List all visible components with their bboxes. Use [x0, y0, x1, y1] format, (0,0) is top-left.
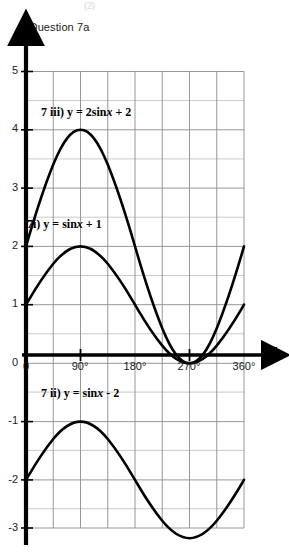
- x-tick-180: 180°: [115, 360, 155, 372]
- annotation-sinx-plus-1: 7i) y = sinx + 1: [27, 217, 102, 232]
- grid-vertical: [26, 72, 244, 529]
- y-tick-2: 2: [0, 239, 18, 251]
- y-tick-3: 3: [0, 181, 18, 193]
- y-tick-neg2: -2: [0, 473, 18, 485]
- y-tick-1: 1: [0, 297, 18, 309]
- annotation-sinx-minus-2: 7 ii) y = sinx - 2: [41, 386, 119, 401]
- chart-canvas: (2) Question 7a y x: [0, 0, 289, 554]
- annotation-2sinx-plus-2: 7 iii) y = 2sinx + 2: [41, 105, 131, 120]
- y-tick-4: 4: [0, 122, 18, 134]
- y-tick-neg3: -3: [0, 521, 18, 533]
- x-tick-270: 270°: [169, 360, 209, 372]
- y-tick-5: 5: [0, 64, 18, 76]
- x-tick-90: 90°: [60, 360, 100, 372]
- graph-svg: [0, 0, 289, 554]
- y-tick-neg1: -1: [0, 414, 18, 426]
- x-tick-0: 0: [6, 360, 46, 372]
- x-tick-360: 360°: [224, 360, 264, 372]
